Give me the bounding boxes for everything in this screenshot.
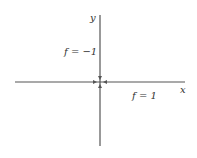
arrow-left-icon (103, 80, 107, 84)
y-axis-label: y (89, 12, 96, 23)
x-axis-label: x (180, 84, 186, 95)
arrow-up-icon (98, 84, 102, 88)
region-label-f-1: f = 1 (131, 90, 157, 101)
arrow-right-icon (93, 80, 97, 84)
axes-diagram: y x f = −1 f = 1 (0, 0, 197, 158)
arrow-down-icon (98, 76, 102, 80)
region-label-f-neg1: f = −1 (63, 46, 97, 57)
